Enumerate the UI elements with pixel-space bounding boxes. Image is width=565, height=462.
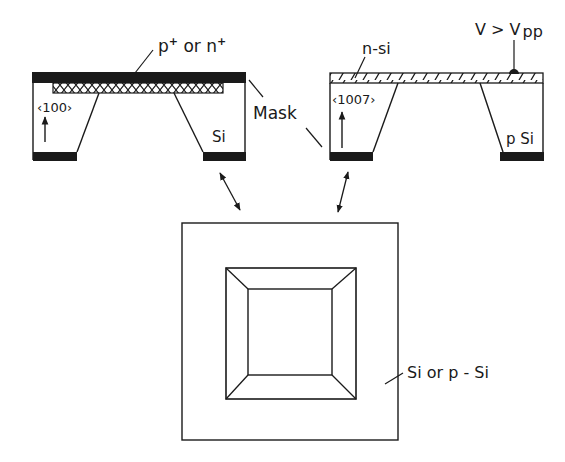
voltage-contact-dot xyxy=(509,69,519,74)
pit-edge-tl xyxy=(226,268,248,289)
left-doped-layer xyxy=(53,83,223,93)
right-etch-wall-left xyxy=(373,83,398,152)
left-orientation-label: ‹100› xyxy=(37,100,72,115)
left-correspondence-arrow xyxy=(220,173,240,210)
left-bottom-mask-left xyxy=(33,152,77,161)
left-etch-wall-right xyxy=(174,93,203,152)
top-view: Si or p - Si xyxy=(182,223,489,440)
right-cross-section: n-si V > Vpp ‹1007› p Si xyxy=(330,20,544,161)
left-etch-wall-left xyxy=(77,93,99,152)
top-view-outer-square xyxy=(182,223,398,440)
mask-leader-left xyxy=(249,80,263,97)
etch-stop-diagram: p+ or n+ ‹100› Si Mask n-si V > Vpp ‹100… xyxy=(0,0,565,462)
left-bottom-mask-right xyxy=(203,152,246,161)
mask-label: Mask xyxy=(253,103,297,123)
pit-edge-br xyxy=(332,375,356,399)
top-view-pit-bottom xyxy=(248,289,332,375)
left-doped-leader xyxy=(135,50,153,73)
left-cross-section: p+ or n+ ‹100› Si xyxy=(32,35,246,161)
right-bottom-mask-left xyxy=(330,152,373,161)
right-bottom-mask-right xyxy=(500,152,544,161)
left-top-mask xyxy=(32,72,246,83)
pit-edge-bl xyxy=(226,375,248,399)
right-orientation-label: ‹1007› xyxy=(332,92,375,107)
mask-annotation: Mask xyxy=(249,80,322,147)
left-doped-label: p+ or n+ xyxy=(158,35,226,56)
right-epi-layer xyxy=(330,73,543,83)
mask-leader-right xyxy=(306,128,322,147)
right-etch-wall-right xyxy=(480,83,503,152)
left-substrate-outline xyxy=(33,83,245,160)
right-layer-label: n-si xyxy=(362,39,391,58)
pit-edge-tr xyxy=(332,268,356,289)
right-substrate-label: p Si xyxy=(506,130,534,148)
material-label: Si or p - Si xyxy=(407,363,489,382)
right-correspondence-arrow xyxy=(338,172,348,212)
voltage-label: V > Vpp xyxy=(475,20,543,41)
material-leader xyxy=(385,373,403,384)
left-substrate-label: Si xyxy=(212,128,226,146)
